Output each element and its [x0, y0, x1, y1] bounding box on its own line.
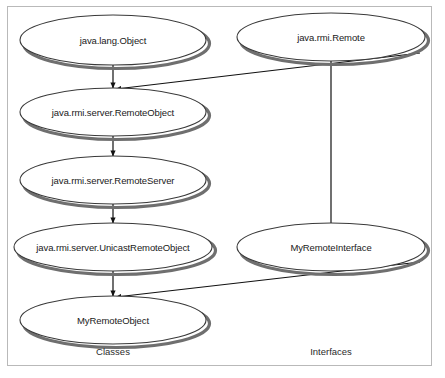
node-myremoteobject[interactable]	[20, 296, 206, 344]
hierarchy-graph	[0, 0, 445, 378]
node-java-rmi-server-unicastremoteobject[interactable]	[14, 223, 212, 271]
node-java-rmi-server-remoteobject[interactable]	[20, 88, 206, 136]
node-java-lang-object[interactable]	[20, 15, 206, 65]
caption-interfaces: Interfaces	[310, 346, 352, 357]
caption-classes: Classes	[96, 346, 130, 357]
diagram-canvas: java.lang.Objectjava.rmi.Remotejava.rmi.…	[0, 0, 445, 378]
node-java-rmi-remote[interactable]	[237, 13, 425, 61]
node-myremoteinterface[interactable]	[237, 223, 425, 271]
node-java-rmi-server-remoteserver[interactable]	[20, 156, 206, 204]
node-layer	[14, 13, 429, 348]
